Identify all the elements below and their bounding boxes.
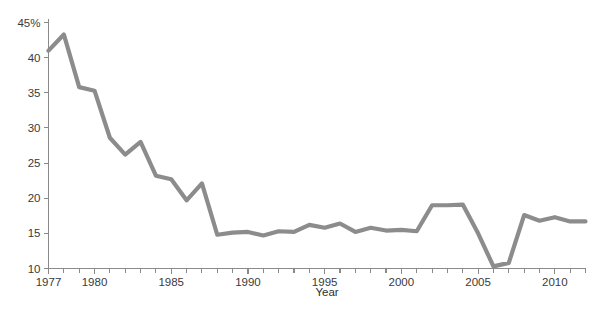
x-tick-label: 2000 <box>389 276 415 288</box>
x-tick-label: 2005 <box>465 276 491 288</box>
y-tick-label: 45% <box>17 17 40 29</box>
line-chart: 45%40353025201510 1977198019851990199520… <box>0 0 608 315</box>
y-tick-label: 35 <box>28 87 41 99</box>
y-tick-label: 30 <box>28 122 41 134</box>
data-series-line <box>49 34 586 266</box>
y-axis-tick-labels: 45%40353025201510 <box>17 17 40 275</box>
y-tick-label: 10 <box>28 263 41 275</box>
x-axis-tick-labels: 19771980198519901995200020052010 <box>36 276 568 288</box>
x-axis-ticks <box>49 269 586 275</box>
x-tick-label: 1977 <box>36 276 62 288</box>
y-tick-label: 40 <box>28 52 41 64</box>
y-tick-label: 15 <box>28 227 41 239</box>
y-axis-ticks <box>44 23 49 269</box>
chart-canvas: 45%40353025201510 1977198019851990199520… <box>0 0 608 315</box>
x-tick-label: 1985 <box>158 276 184 288</box>
y-tick-label: 25 <box>28 157 41 169</box>
x-axis-title: Year <box>315 286 338 298</box>
x-tick-label: 1990 <box>235 276 261 288</box>
y-tick-label: 20 <box>28 192 41 204</box>
x-tick-label: 2010 <box>542 276 568 288</box>
x-tick-label: 1980 <box>82 276 108 288</box>
